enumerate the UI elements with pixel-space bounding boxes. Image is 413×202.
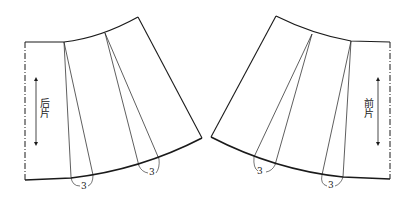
front-dart-2	[322, 41, 351, 186]
front-dart-1	[254, 34, 312, 172]
front-piece-label: 前片	[363, 99, 374, 119]
front-side-seam	[211, 16, 276, 137]
front-dart-1-measurement: 3	[257, 167, 263, 176]
back-dart-2-measurement: 3	[149, 168, 155, 177]
back-waist-curve	[25, 17, 138, 42]
back-hem-curve	[25, 138, 202, 180]
pattern-diagram: 后片 前片 3 3 3 3	[0, 0, 413, 202]
front-dart-2-measurement: 3	[328, 181, 334, 190]
back-dart-1-measurement: 3	[81, 182, 87, 191]
front-hem-curve	[211, 137, 390, 179]
back-dart-2	[105, 33, 159, 173]
back-piece	[25, 17, 202, 186]
back-side-seam	[138, 17, 202, 138]
back-dart-1	[64, 42, 93, 186]
back-piece-label: 后片	[39, 99, 50, 119]
front-waist-curve	[276, 16, 390, 42]
